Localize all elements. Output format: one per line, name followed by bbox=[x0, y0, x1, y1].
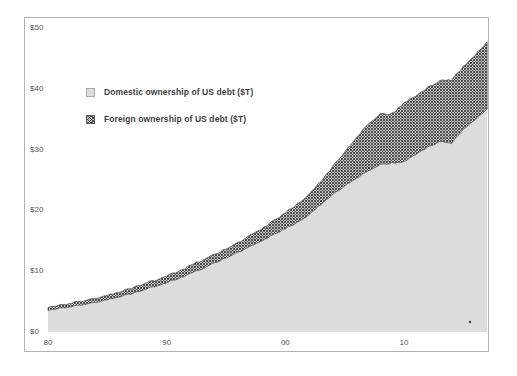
legend-item-foreign: Foreign ownership of US debt ($T) bbox=[86, 112, 253, 126]
y-axis-tick-label: $40 bbox=[30, 84, 56, 94]
x-axis-tick-label: 00 bbox=[275, 338, 295, 348]
foreign-swatch-icon bbox=[86, 115, 95, 124]
legend-label-domestic: Domestic ownership of US debt ($T) bbox=[104, 87, 253, 97]
y-axis-tick-label: $0 bbox=[30, 327, 56, 337]
x-axis-tick-label: 90 bbox=[157, 338, 177, 348]
chart-canvas: $50$40$30$20$10$0 80900010 Domestic owne… bbox=[0, 0, 517, 376]
stray-mark bbox=[469, 321, 472, 324]
stacked-area-chart bbox=[0, 0, 517, 376]
y-axis-tick-label: $10 bbox=[30, 266, 56, 276]
chart-legend: Domestic ownership of US debt ($T) Forei… bbox=[86, 85, 253, 139]
y-axis-tick-label: $20 bbox=[30, 205, 56, 215]
x-axis-tick-label: 10 bbox=[394, 338, 414, 348]
legend-item-domestic: Domestic ownership of US debt ($T) bbox=[86, 85, 253, 99]
y-axis-tick-label: $30 bbox=[30, 145, 56, 155]
legend-label-foreign: Foreign ownership of US debt ($T) bbox=[104, 114, 246, 124]
y-axis-tick-label: $50 bbox=[30, 23, 56, 33]
domestic-swatch-icon bbox=[86, 88, 95, 97]
x-axis-tick-label: 80 bbox=[38, 338, 58, 348]
